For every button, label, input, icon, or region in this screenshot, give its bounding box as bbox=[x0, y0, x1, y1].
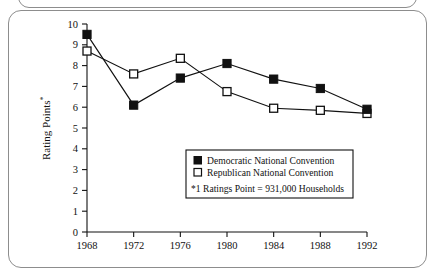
legend-label-republican: Republican National Convention bbox=[207, 167, 333, 178]
legend-marker-democratic bbox=[194, 157, 202, 165]
y-axis-title-text: Rating Points bbox=[40, 100, 52, 160]
y-axis-tick-label: 4 bbox=[73, 143, 79, 154]
x-axis-ticks: 1968197219761980198419881992 bbox=[77, 232, 378, 251]
legend-footnote: *1 Ratings Point = 931,000 Households bbox=[191, 183, 344, 194]
x-axis-tick-label: 1988 bbox=[310, 240, 331, 251]
republican-point bbox=[270, 104, 278, 112]
x-axis-tick-label: 1984 bbox=[263, 240, 285, 251]
republican-point bbox=[130, 70, 138, 78]
chart-legend: Democratic National Convention Republica… bbox=[186, 150, 353, 198]
y-axis-title: Rating Points* bbox=[39, 96, 52, 160]
republican-point bbox=[223, 88, 231, 96]
y-axis-tick-label: 3 bbox=[73, 164, 78, 175]
y-axis-tick-label: 8 bbox=[73, 60, 78, 71]
y-axis-title-superscript: * bbox=[39, 96, 48, 100]
republican-series-markers bbox=[83, 47, 371, 117]
y-axis-tick-label: 2 bbox=[73, 185, 78, 196]
democratic-point bbox=[270, 75, 278, 83]
x-axis-tick-label: 1992 bbox=[357, 240, 378, 251]
democratic-point bbox=[83, 30, 91, 38]
democratic-point bbox=[363, 105, 371, 113]
y-axis-tick-label: 7 bbox=[73, 81, 78, 92]
y-axis-tick-label: 6 bbox=[73, 102, 78, 113]
x-axis-tick-label: 1980 bbox=[217, 240, 238, 251]
x-axis-tick-label: 1972 bbox=[123, 240, 144, 251]
democratic-point bbox=[130, 101, 138, 109]
ratings-line-chart: Rating Points* 012345678910 196819721976… bbox=[0, 0, 435, 278]
x-axis-tick-label: 1968 bbox=[77, 240, 98, 251]
democratic-series-markers bbox=[83, 30, 371, 113]
y-axis-tick-label: 9 bbox=[73, 39, 78, 50]
democratic-point bbox=[316, 84, 324, 92]
democratic-point bbox=[223, 59, 231, 67]
y-axis-tick-label: 1 bbox=[73, 206, 78, 217]
legend-label-democratic: Democratic National Convention bbox=[207, 155, 335, 166]
y-axis-tick-label: 0 bbox=[73, 227, 78, 238]
republican-point bbox=[83, 47, 91, 55]
y-axis-tick-label: 5 bbox=[73, 123, 78, 134]
x-axis-tick-label: 1976 bbox=[170, 240, 191, 251]
republican-point bbox=[176, 54, 184, 62]
democratic-point bbox=[176, 74, 184, 82]
republican-point bbox=[316, 106, 324, 114]
y-axis-tick-label: 10 bbox=[68, 19, 79, 30]
legend-marker-republican bbox=[194, 169, 202, 177]
